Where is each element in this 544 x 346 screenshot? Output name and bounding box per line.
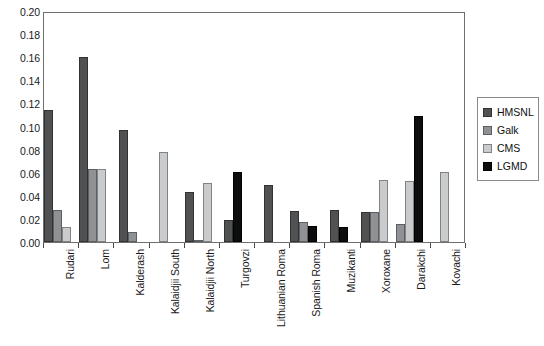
y-tick-label: 0.00 bbox=[20, 238, 40, 249]
chart-legend: HMSNLGalkCMSLGMD bbox=[477, 97, 539, 181]
bar-lgmd bbox=[414, 116, 423, 242]
legend-item-cms[interactable]: CMS bbox=[483, 139, 532, 157]
bar-lgmd bbox=[308, 226, 317, 242]
bar-galk bbox=[299, 222, 308, 242]
bar-group-bars bbox=[264, 13, 273, 242]
bar-hmsnl bbox=[290, 211, 299, 242]
x-tick bbox=[289, 243, 290, 248]
legend-item-hmsnl[interactable]: HMSNL bbox=[483, 103, 532, 121]
x-axis-label: Lom bbox=[100, 249, 111, 269]
legend-swatch-icon bbox=[483, 144, 492, 153]
bar-group bbox=[290, 13, 325, 242]
x-axis-label: Turgovzi bbox=[240, 249, 251, 288]
bar-group-bars bbox=[290, 13, 317, 242]
x-axis-label: Spanish Roma bbox=[311, 249, 322, 317]
y-tick-label: 0.20 bbox=[20, 7, 40, 18]
x-axis-label: Kalaidjii South bbox=[170, 249, 181, 314]
x-tick bbox=[184, 243, 185, 248]
bar-cms bbox=[62, 227, 71, 242]
x-tick bbox=[430, 243, 431, 248]
bar-group bbox=[325, 13, 360, 242]
x-tick bbox=[149, 243, 150, 248]
bar-lgmd bbox=[233, 172, 242, 242]
bar-group-bars bbox=[44, 13, 71, 242]
legend-swatch-icon bbox=[483, 108, 492, 117]
legend-label: Galk bbox=[497, 125, 519, 136]
legend-swatch-icon bbox=[483, 126, 492, 135]
bar-group bbox=[396, 13, 431, 242]
bar-group bbox=[150, 13, 185, 242]
bar-cms bbox=[97, 169, 106, 242]
legend-label: CMS bbox=[497, 143, 520, 154]
x-axis-label: Lithuanian Roma bbox=[276, 249, 287, 327]
legend-swatch-icon bbox=[483, 162, 492, 171]
x-tick bbox=[465, 243, 466, 248]
x-axis-label: Kalaidjii North bbox=[205, 249, 216, 312]
y-tick-label: 0.16 bbox=[20, 53, 40, 64]
bar-lgmd bbox=[339, 227, 348, 242]
bar-chart: 0.200.180.160.140.120.100.080.060.040.02… bbox=[0, 0, 544, 346]
bar-group-bars bbox=[79, 13, 106, 242]
bar-group bbox=[361, 13, 396, 242]
x-axis-label: Xoroxane bbox=[381, 249, 392, 293]
bar-group bbox=[79, 13, 114, 242]
bar-galk bbox=[88, 169, 97, 242]
bar-group bbox=[185, 13, 220, 242]
x-tick bbox=[324, 243, 325, 248]
legend-label: HMSNL bbox=[497, 107, 534, 118]
bar-group bbox=[44, 13, 79, 242]
y-tick-label: 0.14 bbox=[20, 76, 40, 87]
x-axis-label: Kalderash bbox=[135, 249, 146, 295]
x-axis-labels: RudariLomKalderashKalaidjii SouthKalaidj… bbox=[43, 249, 465, 344]
bar-hmsnl bbox=[361, 212, 370, 242]
y-tick-label: 0.10 bbox=[20, 122, 40, 133]
bar-cms bbox=[203, 183, 212, 242]
x-tick bbox=[254, 243, 255, 248]
x-tick bbox=[219, 243, 220, 248]
legend-item-galk[interactable]: Galk bbox=[483, 121, 532, 139]
bar-group-bars bbox=[119, 13, 137, 242]
y-tick-label: 0.06 bbox=[20, 168, 40, 179]
legend-label: LGMD bbox=[497, 161, 527, 172]
bar-group-bars bbox=[159, 13, 168, 242]
x-tick bbox=[113, 243, 114, 248]
bar-hmsnl bbox=[185, 192, 194, 242]
x-axis-label: Rudari bbox=[65, 249, 76, 279]
x-tick bbox=[395, 243, 396, 248]
bar-galk bbox=[194, 240, 203, 242]
bar-hmsnl bbox=[224, 220, 233, 242]
y-tick-label: 0.02 bbox=[20, 215, 40, 226]
bar-hmsnl bbox=[264, 185, 273, 242]
x-tick bbox=[360, 243, 361, 248]
bar-group-bars bbox=[440, 13, 449, 242]
bar-galk bbox=[53, 210, 62, 242]
x-tick bbox=[78, 243, 79, 248]
bar-group-bars bbox=[330, 13, 348, 242]
bar-hmsnl bbox=[79, 57, 88, 242]
bar-hmsnl bbox=[119, 130, 128, 242]
bar-group-bars bbox=[396, 13, 423, 242]
bar-galk bbox=[396, 224, 405, 242]
bar-group bbox=[431, 13, 466, 242]
bar-group-bars bbox=[185, 13, 212, 242]
bar-group bbox=[255, 13, 290, 242]
bar-group-bars bbox=[361, 13, 388, 242]
y-tick-label: 0.08 bbox=[20, 145, 40, 156]
bar-group-bars bbox=[224, 13, 242, 242]
bar-galk bbox=[128, 232, 137, 242]
bar-galk bbox=[370, 212, 379, 242]
bar-group bbox=[220, 13, 255, 242]
bar-hmsnl bbox=[330, 210, 339, 242]
y-tick-label: 0.18 bbox=[20, 30, 40, 41]
bar-cms bbox=[379, 180, 388, 242]
bar-group bbox=[114, 13, 149, 242]
bar-cms bbox=[440, 172, 449, 242]
x-axis-label: Kovachi bbox=[451, 249, 462, 286]
legend-item-lgmd[interactable]: LGMD bbox=[483, 157, 532, 175]
y-tick-label: 0.04 bbox=[20, 192, 40, 203]
bar-cms bbox=[405, 181, 414, 242]
bar-cms bbox=[159, 152, 168, 242]
bar-hmsnl bbox=[44, 110, 53, 242]
plot-area bbox=[43, 12, 465, 243]
x-axis-label: Darakchi bbox=[416, 249, 427, 290]
